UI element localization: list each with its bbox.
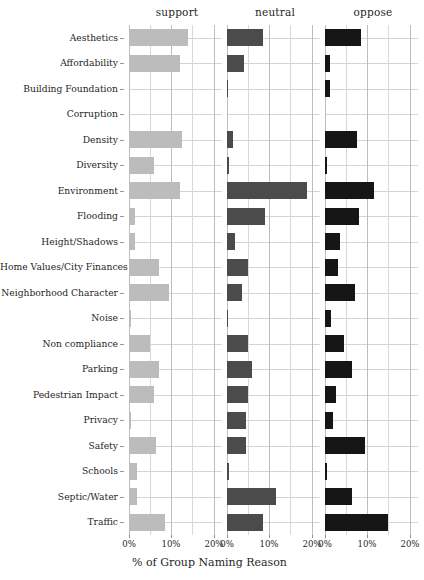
gridline-horizontal — [325, 165, 418, 166]
category-tick — [120, 522, 124, 523]
category-label: Septic/Water — [0, 492, 118, 502]
gridline-horizontal — [227, 318, 320, 319]
bar — [129, 361, 159, 378]
panel-neutral — [227, 25, 320, 535]
x-tick-label: 10% — [352, 539, 382, 549]
x-tick-label: 0% — [114, 539, 144, 549]
gridline-vertical — [171, 25, 172, 535]
bar — [129, 55, 180, 72]
category-tick — [120, 242, 124, 243]
bar — [129, 335, 150, 352]
category-label: Non compliance — [0, 339, 118, 349]
bar — [325, 259, 338, 276]
category-tick — [120, 369, 124, 370]
bar — [129, 157, 154, 174]
bar — [325, 55, 330, 72]
gridline-vertical — [346, 25, 347, 535]
x-tick-label: 10% — [156, 539, 186, 549]
gridline-vertical — [325, 25, 326, 535]
gridline-vertical — [290, 25, 291, 535]
bar — [227, 488, 276, 505]
gridline-horizontal — [325, 114, 418, 115]
bar — [129, 29, 188, 46]
x-axis-title: % of Group Naming Reason — [0, 556, 419, 569]
chart-panels — [129, 25, 417, 535]
panel-support — [129, 25, 222, 535]
category-label: Environment — [0, 186, 118, 196]
category-tick — [120, 165, 124, 166]
panel-title-support: support — [129, 6, 225, 18]
category-tick — [120, 114, 124, 115]
x-axis-support: 0%10%20% — [129, 535, 222, 555]
gridline-horizontal — [325, 471, 418, 472]
bar — [129, 310, 131, 327]
bar — [129, 208, 135, 225]
x-tick-label: 20% — [395, 539, 424, 549]
bar — [325, 463, 327, 480]
category-label: Traffic — [0, 517, 118, 527]
bar — [227, 233, 235, 250]
bar — [129, 284, 169, 301]
category-label: Density — [0, 135, 118, 145]
category-tick — [120, 140, 124, 141]
x-tick-mark — [129, 535, 130, 538]
bar — [227, 29, 263, 46]
category-label: Height/Shadows — [0, 237, 118, 247]
category-tick — [120, 318, 124, 319]
gridline-horizontal — [325, 267, 418, 268]
bar — [227, 157, 229, 174]
x-axis: 0%10%20% 0%10%20% 0%10%20% — [129, 535, 417, 555]
gridline-horizontal — [325, 395, 418, 396]
gridline-vertical — [214, 25, 215, 535]
category-label: Neighborhood Character — [0, 288, 118, 298]
bar — [129, 412, 131, 429]
gridline-horizontal — [129, 471, 222, 472]
bar — [325, 488, 352, 505]
x-axis-oppose: 0%10%20% — [325, 535, 418, 555]
gridline-horizontal — [227, 114, 320, 115]
gridline-horizontal — [227, 242, 320, 243]
x-tick-mark — [410, 535, 411, 538]
x-axis-neutral: 0%10%20% — [227, 535, 320, 555]
category-tick — [120, 497, 124, 498]
bar — [325, 157, 327, 174]
category-tick — [120, 293, 124, 294]
bar — [325, 284, 355, 301]
gridline-vertical — [312, 25, 313, 535]
category-label: Building Foundation — [0, 84, 118, 94]
bar — [227, 386, 248, 403]
bar — [325, 182, 374, 199]
category-label: Affordability — [0, 58, 118, 68]
category-tick — [120, 420, 124, 421]
category-tick — [120, 395, 124, 396]
bar — [325, 80, 330, 97]
x-tick-mark — [227, 535, 228, 538]
bar — [227, 463, 229, 480]
bar — [227, 208, 265, 225]
category-tick — [120, 216, 124, 217]
bar — [325, 29, 361, 46]
gridline-horizontal — [325, 420, 418, 421]
gridline-horizontal — [227, 140, 320, 141]
panel-title-oppose: oppose — [325, 6, 421, 18]
category-label: Noise — [0, 313, 118, 323]
bar — [129, 131, 182, 148]
category-tick — [120, 446, 124, 447]
bar — [129, 437, 156, 454]
bar — [325, 335, 344, 352]
x-tick-mark — [171, 535, 172, 538]
bar — [129, 259, 159, 276]
gridline-horizontal — [227, 471, 320, 472]
bar — [129, 514, 165, 531]
x-tick-mark — [214, 535, 215, 538]
bar — [129, 463, 137, 480]
bar — [227, 55, 244, 72]
category-label: Safety — [0, 441, 118, 451]
category-label: Diversity — [0, 160, 118, 170]
category-label: Home Values/City Finances — [0, 262, 118, 272]
bar — [325, 412, 333, 429]
category-tick — [120, 267, 124, 268]
bar — [129, 488, 137, 505]
category-tick — [120, 471, 124, 472]
